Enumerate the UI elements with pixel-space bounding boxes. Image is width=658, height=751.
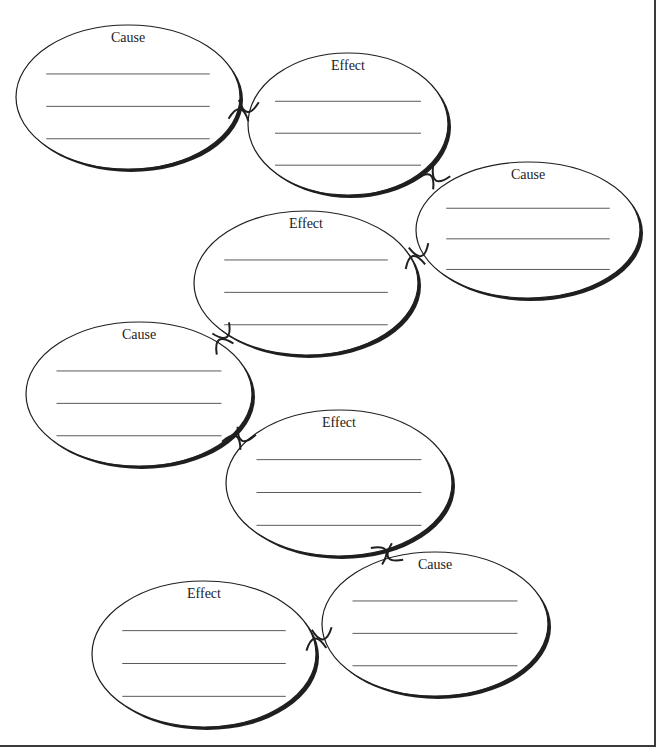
- node-label: Cause: [122, 327, 156, 342]
- node-ellipse: [416, 162, 640, 298]
- node-label: Effect: [322, 415, 356, 430]
- node-cause-1: Cause: [16, 25, 243, 172]
- cause-effect-diagram: CauseEffectCauseEffectCauseEffectCauseEf…: [0, 0, 658, 751]
- node-ellipse: [194, 211, 418, 355]
- node-label: Cause: [418, 557, 452, 572]
- frame-border-right: [654, 0, 656, 747]
- node-label: Effect: [331, 58, 365, 73]
- node-effect-6: Effect: [226, 410, 455, 559]
- node-ellipse: [322, 552, 548, 696]
- node-label: Cause: [111, 30, 145, 45]
- node-effect-8: Effect: [92, 581, 319, 730]
- node-ellipse: [248, 53, 448, 195]
- node-ellipse: [92, 581, 316, 727]
- node-ellipse: [226, 410, 452, 556]
- node-label: Effect: [289, 216, 323, 231]
- node-label: Cause: [511, 167, 545, 182]
- node-ellipse: [26, 322, 252, 466]
- node-label: Effect: [187, 586, 221, 601]
- node-cause-3: Cause: [416, 162, 643, 301]
- node-cause-5: Cause: [26, 322, 255, 469]
- node-cause-7: Cause: [322, 552, 551, 699]
- node-ellipse: [16, 25, 240, 169]
- frame-border-bottom: [0, 745, 656, 747]
